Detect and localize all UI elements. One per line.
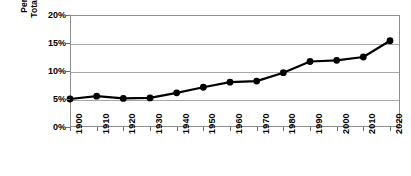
line-chart: Percentage of Total Population 20%15%10%…: [0, 0, 411, 176]
x-axis-tick-label: 1960: [234, 113, 244, 134]
y-axis-tick-mark: [66, 15, 70, 16]
x-axis-tick-label: 1900: [74, 113, 84, 134]
x-axis-tick-mark: [257, 127, 258, 131]
x-axis-tick-label: 1950: [207, 113, 217, 134]
y-axis-tick-mark: [66, 71, 70, 72]
y-axis-tick-labels: 20%15%10%5%0%: [34, 0, 66, 176]
x-axis-tick-label: 2010: [367, 113, 377, 134]
x-axis-tick-label: 2000: [341, 113, 351, 134]
x-axis-tick-mark: [70, 127, 71, 131]
gridline: [71, 100, 399, 101]
x-axis-tick-label: 1940: [181, 113, 191, 134]
x-axis-tick-label: 1980: [287, 113, 297, 134]
plot-area: [70, 15, 400, 127]
x-axis-tick-mark: [203, 127, 204, 131]
x-axis-tick-mark: [390, 127, 391, 131]
x-axis-tick-mark: [150, 127, 151, 131]
y-axis-tick-label: 20%: [36, 10, 66, 20]
y-axis-tick-label: 0%: [36, 122, 66, 132]
x-axis-tick-mark: [230, 127, 231, 131]
gridline: [71, 44, 399, 45]
x-axis-tick-mark: [177, 127, 178, 131]
x-axis-tick-mark: [283, 127, 284, 131]
x-axis-tick-label: 1930: [154, 113, 164, 134]
x-axis-tick-label: 1920: [127, 113, 137, 134]
x-axis-tick-label: 1910: [101, 113, 111, 134]
x-axis-tick-mark: [97, 127, 98, 131]
x-axis-tick-label: 1990: [314, 113, 324, 134]
y-axis-title-line-1: Percentage of: [19, 0, 30, 13]
x-axis-tick-mark: [310, 127, 311, 131]
y-axis-tick-label: 15%: [36, 38, 66, 48]
y-axis-tick-label: 5%: [36, 94, 66, 104]
y-axis-tick-mark: [66, 99, 70, 100]
y-axis-tick-label: 10%: [36, 66, 66, 76]
x-axis-tick-label: 1970: [261, 113, 271, 134]
gridline: [71, 72, 399, 73]
y-axis-tick-mark: [66, 43, 70, 44]
x-axis-tick-mark: [363, 127, 364, 131]
x-axis-tick-mark: [337, 127, 338, 131]
x-axis-tick-label: 2020: [394, 113, 404, 134]
x-axis-tick-mark: [123, 127, 124, 131]
